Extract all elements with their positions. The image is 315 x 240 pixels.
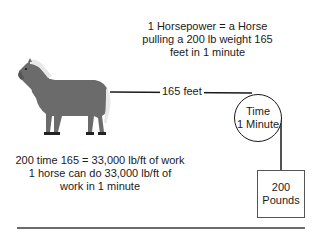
definition-line: feet in 1 minute: [100, 46, 315, 59]
time-value: 1 Minute: [237, 118, 279, 131]
time-circle: Time 1 Minute: [234, 94, 282, 142]
weight-unit: Pounds: [262, 194, 299, 207]
calculation-line: 200 time 165 = 33,000 lb/ft of work: [0, 154, 200, 167]
weight-box: 200 Pounds: [257, 170, 305, 218]
distance-label: 165 feet: [160, 85, 204, 98]
definition-line: 1 Horsepower = a Horse: [100, 20, 315, 33]
horse-icon: [0, 58, 115, 138]
time-label: Time: [246, 105, 270, 118]
definition-line: pulling a 200 lb weight 165: [100, 33, 315, 46]
weight-value: 200: [272, 181, 290, 194]
calculation-line: work in 1 minute: [0, 180, 200, 193]
definition-text: 1 Horsepower = a Horse pulling a 200 lb …: [100, 20, 315, 59]
calculation-line: 1 horse can do 33,000 lb/ft of: [0, 167, 200, 180]
calculation-text: 200 time 165 = 33,000 lb/ft of work 1 ho…: [0, 154, 200, 193]
